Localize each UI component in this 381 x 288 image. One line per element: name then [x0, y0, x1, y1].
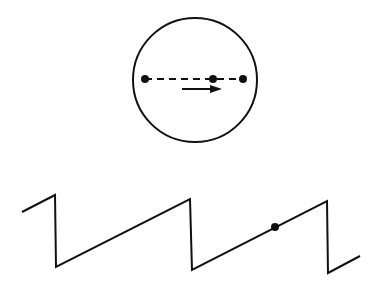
circle-figure [133, 18, 257, 142]
left-end-dot [141, 75, 149, 83]
sawtooth-graph [22, 195, 360, 273]
arrow-head-icon [210, 85, 222, 93]
diagram-canvas [0, 0, 381, 288]
moving-point-dot [209, 75, 217, 83]
direction-arrow [182, 85, 222, 93]
right-end-dot [239, 75, 247, 83]
sawtooth-marker-point [271, 223, 279, 231]
sawtooth-wave [22, 195, 360, 273]
